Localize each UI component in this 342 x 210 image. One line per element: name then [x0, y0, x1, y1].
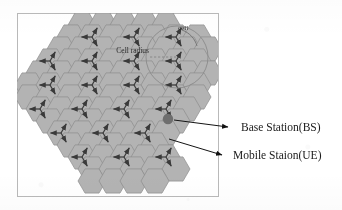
- legend-label-base-station: Base Station(BS): [241, 121, 321, 134]
- base-station-marker[interactable]: [163, 114, 173, 124]
- cellular-layout-diagram: cell Cell radius Base Station(BS) Mobile…: [0, 0, 342, 210]
- cell-label: cell: [178, 24, 188, 32]
- figure-canvas: cell Cell radius Base Station(BS) Mobile…: [0, 0, 342, 210]
- legend-label-mobile-station: Mobile Staion(UE): [233, 149, 322, 162]
- cell-radius-label: Cell radius: [116, 46, 149, 55]
